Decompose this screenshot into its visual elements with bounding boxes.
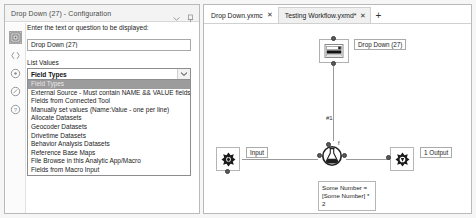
configuration-panel-header: Drop Down (27) - Configuration — [5, 5, 199, 22]
macro-input-label: Input — [246, 147, 268, 158]
connector-input-to-formula — [242, 159, 318, 160]
dropdown-option[interactable]: Drivetime Datasets — [28, 132, 190, 141]
configuration-icon[interactable] — [9, 31, 22, 44]
tab-bar: Drop Down.yxmc✕Testing Workflow.yxmd*✕+ — [204, 5, 471, 24]
workflow-canvas[interactable]: Drop Down (27) #1 Input — [206, 25, 469, 211]
svg-text:?: ? — [14, 107, 18, 113]
dropdown-option[interactable]: Fields from Macro Input — [28, 166, 190, 175]
workflow-tab[interactable]: Drop Down.yxmc✕ — [204, 7, 278, 23]
help-icon[interactable]: ? — [9, 103, 22, 116]
connector-formula-to-output — [346, 159, 392, 160]
combobox-chevron-down-icon[interactable] — [177, 69, 190, 79]
dropdown-option[interactable]: Behavior Analysis Datasets — [28, 140, 190, 149]
dropdown-tool-top-anchor[interactable] — [331, 36, 336, 41]
prompt-text-input[interactable] — [27, 39, 191, 51]
list-values-label: List Values — [27, 59, 197, 66]
formula-tool-output-anchor[interactable] — [342, 153, 347, 158]
macro-input-node[interactable] — [216, 147, 240, 171]
close-icon[interactable]: ✕ — [267, 11, 273, 19]
dropdown-option[interactable]: File Browse in this Analytic App/Macro — [28, 157, 190, 166]
dropdown-tool-icon[interactable] — [319, 39, 349, 63]
combobox-selected-value: Field Types — [31, 71, 67, 78]
close-icon[interactable]: ✕ — [360, 12, 366, 20]
dropdown-option[interactable]: Allocate Datasets — [28, 114, 190, 123]
workflow-canvas-panel: Drop Down.yxmc✕Testing Workflow.yxmd*✕+ … — [203, 4, 472, 214]
configuration-panel: Drop Down (27) - Configuration — [4, 4, 200, 214]
list-values-dropdown-options[interactable]: Field TypesExternal Source - Must contai… — [27, 80, 191, 176]
dropdown-option[interactable]: Manually set values (Name:Value - one pe… — [28, 106, 190, 115]
macro-output-node[interactable] — [390, 147, 414, 171]
interface-designer-icon[interactable] — [9, 67, 22, 80]
list-values-combobox[interactable]: Field Types — [27, 68, 191, 80]
formula-tool-icon[interactable] — [321, 145, 343, 167]
formula-tool-badge: f — [338, 140, 340, 146]
dropdown-option[interactable]: Reference Base Maps — [28, 149, 190, 158]
dropdown-option[interactable]: Fields from Connected Tool — [28, 97, 190, 106]
dropdown-option[interactable]: Geocoder Datasets — [28, 123, 190, 132]
dropdown-tool-node[interactable] — [319, 39, 349, 63]
dropdown-tool-label: Drop Down (27) — [354, 39, 406, 50]
workflow-tab-label: Testing Workflow.yxmd* — [285, 12, 357, 19]
add-tab-button[interactable]: + — [371, 11, 385, 23]
prompt-label: Enter the text or question to be display… — [27, 24, 197, 31]
annotation-icon[interactable] — [9, 49, 22, 62]
connection-number-label: #1 — [326, 115, 333, 121]
macro-output-label: 1 Output — [420, 147, 452, 158]
dropdown-option[interactable]: External Source - Must contain NAME && V… — [28, 89, 190, 98]
list-values-combobox-wrapper: Field Types Field TypesExternal Source -… — [27, 68, 191, 80]
macro-output-anchor[interactable] — [386, 155, 391, 160]
configuration-body: Enter the text or question to be display… — [27, 24, 197, 211]
chevron-down-icon[interactable] — [172, 9, 181, 18]
output-icon[interactable] — [9, 85, 22, 98]
workflow-tab-label: Drop Down.yxmc — [211, 12, 263, 19]
formula-tool-top-anchor[interactable] — [326, 142, 331, 147]
app-window: Drop Down (27) - Configuration — [0, 0, 476, 218]
page-title: Drop Down (27) - Configuration — [11, 10, 111, 17]
header-icon-group — [172, 9, 195, 18]
config-icon-rail: ? — [6, 23, 26, 213]
formula-tool-node[interactable]: f — [321, 145, 343, 167]
dropdown-option[interactable]: Field Types — [28, 80, 190, 89]
macro-input-anchor[interactable] — [225, 169, 230, 174]
formula-annotation: Some Number = [Some Number] * 2 — [318, 181, 376, 211]
macro-output-icon[interactable] — [390, 147, 414, 171]
workflow-tab[interactable]: Testing Workflow.yxmd*✕ — [278, 7, 372, 23]
macro-input-icon[interactable] — [216, 147, 240, 171]
pin-icon[interactable] — [186, 9, 195, 18]
connector-dropdown-to-formula — [333, 66, 334, 141]
formula-tool-input-anchor[interactable] — [317, 153, 322, 158]
